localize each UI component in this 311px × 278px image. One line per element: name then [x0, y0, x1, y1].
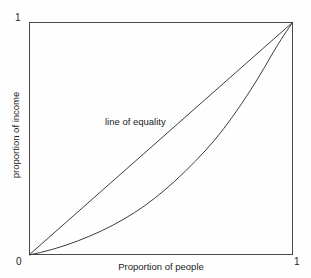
origin-tick-label: 0 — [16, 256, 22, 267]
x-axis-title: Proportion of people — [29, 261, 293, 273]
x-axis-max-tick-label: 1 — [294, 256, 300, 267]
line-of-equality-annotation: line of equality — [105, 116, 166, 128]
lorenz-curve-figure: 1 0 1 Proportion of people proportion of… — [0, 0, 311, 278]
plot-frame — [29, 22, 293, 255]
y-axis-max-tick-label: 1 — [15, 12, 21, 23]
y-axis-title: proportion of income — [10, 75, 22, 195]
